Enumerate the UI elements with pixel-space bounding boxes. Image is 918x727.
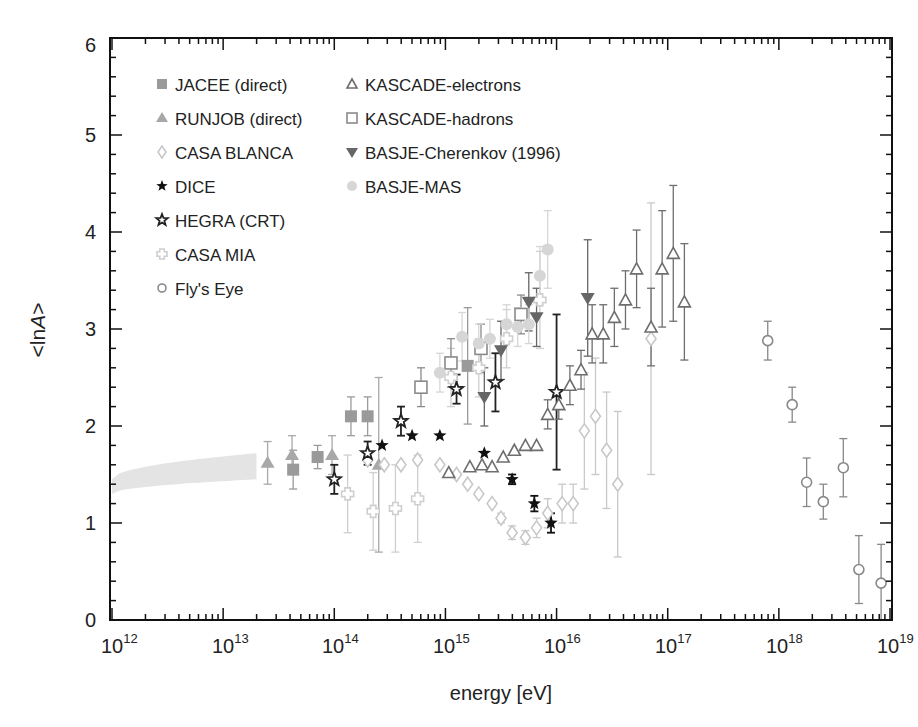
legend-item-flys-eye: Fly's Eye [158, 280, 243, 299]
data-point [542, 243, 554, 255]
y-tick-5: 5 [85, 124, 96, 146]
legend-item-kascade-hadrons: KASCADE-hadrons [347, 110, 513, 129]
legend-item-hegra: HEGRA (CRT) [156, 212, 285, 231]
data-point [613, 477, 623, 491]
svg-text:BASJE-MAS: BASJE-MAS [365, 178, 461, 197]
legend-item-runjob: RUNJOB (direct) [156, 110, 303, 129]
legend-marker-icon [158, 146, 166, 158]
data-point [473, 338, 485, 350]
series-casa-blanca [363, 332, 656, 545]
data-point [287, 464, 299, 476]
data-point [519, 439, 531, 450]
svg-text:RUNJOB (direct): RUNJOB (direct) [175, 110, 303, 129]
legend-marker-icon [158, 284, 166, 292]
data-point [497, 451, 509, 462]
data-point [433, 429, 446, 442]
x-tick-1e17: 1017 [655, 631, 692, 657]
legend-item-kascade-electrons: KASCADE-electrons [347, 76, 521, 95]
legend-marker-icon [156, 112, 168, 122]
legend-marker-icon [347, 181, 357, 191]
data-point [802, 477, 812, 487]
series-hegra-crt- [328, 375, 564, 485]
data-point [838, 463, 848, 473]
data-point [575, 364, 587, 375]
svg-text:DICE: DICE [175, 178, 216, 197]
data-point [579, 424, 589, 438]
y-tick-0: 0 [85, 609, 96, 631]
data-point [487, 497, 497, 511]
data-point [532, 521, 542, 535]
data-point [619, 294, 631, 305]
svg-text:KASCADE-electrons: KASCADE-electrons [365, 76, 521, 95]
x-tick-1e14: 1014 [322, 631, 359, 657]
legend-item-casa-blanca: CASA BLANCA [158, 144, 294, 163]
data-point [405, 429, 418, 442]
legend-item-casa-mia: CASA MIA [157, 246, 256, 265]
data-point [787, 400, 797, 410]
legend: JACEE (direct) RUNJOB (direct) CASA BLAN… [156, 76, 561, 299]
data-point [531, 439, 543, 450]
legend-item-basje-mas: BASJE-MAS [347, 178, 461, 197]
direct-measurement-band [112, 453, 256, 494]
svg-text:JACEE (direct): JACEE (direct) [175, 76, 287, 95]
data-point [474, 487, 484, 501]
y-tick-1: 1 [85, 512, 96, 534]
data-point [476, 459, 488, 470]
data-point [512, 321, 524, 333]
svg-text:Fly's Eye: Fly's Eye [175, 280, 243, 299]
data-point [394, 414, 407, 427]
y-tick-2: 2 [85, 415, 96, 437]
y-tick-6: 6 [85, 34, 96, 56]
svg-text:CASA BLANCA: CASA BLANCA [175, 144, 294, 163]
legend-marker-icon [157, 249, 167, 259]
data-point [396, 458, 406, 472]
errbars-kascade-hadrons [417, 295, 525, 407]
data-point [478, 446, 491, 459]
data-point [462, 360, 474, 372]
legend-item-jacee: JACEE (direct) [157, 76, 287, 95]
data-point [325, 448, 339, 460]
data-point [645, 321, 657, 332]
x-tick-1e15: 1015 [433, 631, 470, 657]
errbars-basje-cherenkov-1996- [480, 240, 591, 426]
x-tick-1e16: 1016 [544, 631, 581, 657]
legend-item-dice: DICE [156, 178, 215, 197]
legend-marker-icon [346, 148, 358, 158]
x-tick-1e12: 1012 [101, 631, 138, 657]
data-point [434, 367, 446, 379]
svg-text:KASCADE-hadrons: KASCADE-hadrons [365, 110, 513, 129]
data-point [501, 333, 513, 345]
svg-text:BASJE-Cherenkov (1996): BASJE-Cherenkov (1996) [365, 144, 561, 163]
data-point [484, 333, 496, 345]
errbars-fly-s-eye [764, 321, 885, 620]
data-point [646, 332, 656, 346]
data-point [631, 263, 643, 274]
x-tick-1e19: 1019 [877, 631, 914, 657]
data-point [415, 381, 427, 393]
data-point [597, 328, 609, 339]
data-point [507, 526, 517, 540]
y-tick-labels: 0 1 2 3 4 5 6 [85, 34, 96, 631]
data-point [508, 444, 520, 455]
y-tick-3: 3 [85, 318, 96, 340]
errbars-kascade-electrons [544, 185, 689, 428]
data-point [445, 372, 457, 384]
data-point [876, 578, 886, 588]
legend-marker-icon [347, 113, 357, 123]
data-point [477, 392, 491, 404]
data-point [515, 308, 527, 320]
data-point [362, 410, 374, 422]
x-tick-1e18: 1018 [766, 631, 803, 657]
data-point [261, 456, 275, 468]
series-fly-s-eye [763, 336, 886, 589]
legend-marker-icon [347, 79, 357, 88]
data-point [523, 318, 535, 330]
data-point [464, 461, 476, 472]
data-point [312, 451, 324, 463]
data-point [456, 331, 468, 343]
data-point [389, 502, 401, 514]
data-point [489, 375, 502, 388]
data-point [501, 318, 513, 330]
data-point [445, 357, 457, 369]
data-point [520, 531, 530, 545]
